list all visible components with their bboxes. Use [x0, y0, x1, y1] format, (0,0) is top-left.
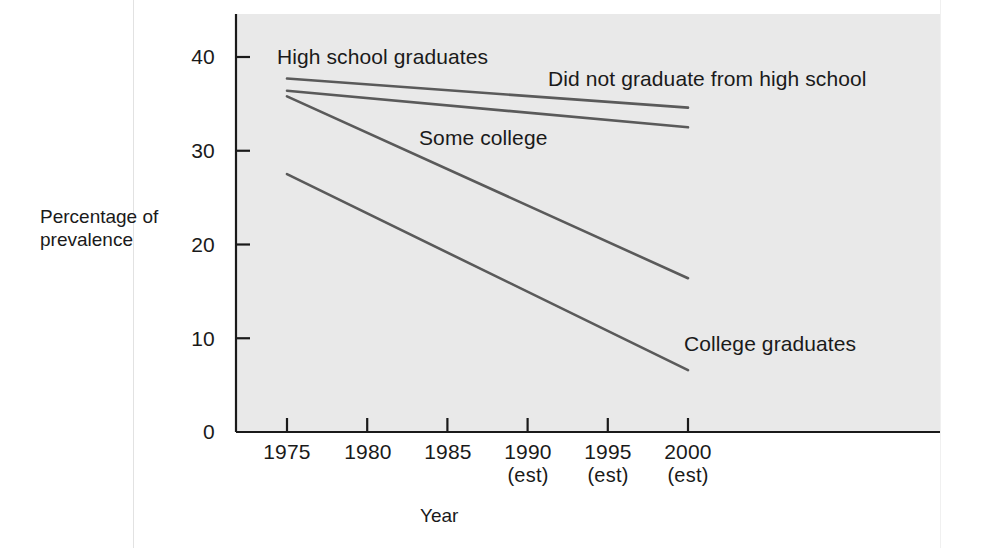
x-tick-year: 1975	[263, 440, 311, 463]
figure-page: 40 30 20 10 0 1975 1980 1985 1990 (est) …	[0, 0, 982, 548]
x-tick-label-1990: 1990 (est)	[483, 440, 573, 486]
x-tick-year: 1985	[424, 440, 472, 463]
x-tick-label-1975: 1975	[242, 440, 332, 464]
x-tick-label-1985: 1985	[403, 440, 493, 464]
y-tick-label-20: 20	[155, 233, 215, 257]
series-label-some-college: Some college	[419, 126, 547, 150]
y-axis-title-line-2: prevalence	[40, 229, 158, 252]
y-tick-label-30: 30	[155, 139, 215, 163]
series-label-college-graduates: College graduates	[684, 332, 856, 356]
x-tick-label-2000: 2000 (est)	[643, 440, 733, 486]
series-lines-group	[287, 79, 688, 371]
x-tick-label-1980: 1980	[323, 440, 413, 464]
x-tick-note: (est)	[643, 464, 733, 486]
x-tick-year: 1995	[584, 440, 632, 463]
y-tick-label-40: 40	[155, 45, 215, 69]
x-tick-year: 1980	[344, 440, 392, 463]
y-axis-title-line-1: Percentage of	[40, 206, 158, 229]
series-line-did-not-graduate-from-high-school	[287, 91, 688, 128]
series-line-some-college	[287, 96, 688, 278]
x-tick-year: 2000	[664, 440, 712, 463]
y-axis-title: Percentage of prevalence	[40, 206, 158, 252]
x-tick-label-1995: 1995 (est)	[563, 440, 653, 486]
series-label-did-not-graduate: Did not graduate from high school	[548, 67, 866, 91]
series-line-college-graduates	[287, 174, 688, 370]
x-tick-note: (est)	[483, 464, 573, 486]
x-axis-title: Year	[420, 505, 458, 527]
x-tick-note: (est)	[563, 464, 653, 486]
series-label-high-school-graduates: High school graduates	[277, 45, 488, 69]
y-tick-label-10: 10	[155, 327, 215, 351]
y-tick-label-0: 0	[155, 420, 215, 444]
x-tick-year: 1990	[504, 440, 552, 463]
